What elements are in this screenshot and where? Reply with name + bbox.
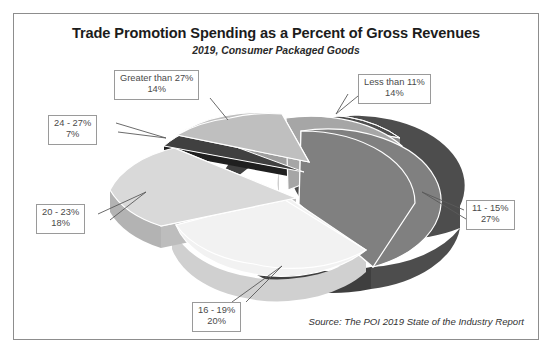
callout-24-27: 24 - 27% 7% bbox=[48, 115, 97, 145]
callout-label: 20 - 23% bbox=[42, 207, 79, 217]
callout-label: Less than 11% bbox=[364, 77, 425, 87]
callout-label: 24 - 27% bbox=[54, 118, 91, 128]
source-note: Source: The POI 2019 State of the Indust… bbox=[309, 316, 524, 327]
callout-16-19: 16 - 19% 20% bbox=[192, 302, 241, 332]
pie-chart-graphic bbox=[14, 14, 539, 340]
leader-line-24-27 bbox=[116, 123, 166, 138]
callout-20-23: 20 - 23% 18% bbox=[36, 204, 85, 234]
callout-value: 27% bbox=[472, 214, 509, 225]
leader-line-lt11 bbox=[336, 94, 358, 114]
callout-value: 18% bbox=[42, 218, 79, 229]
callout-less-than-11: Less than 11% 14% bbox=[358, 74, 431, 104]
callout-label: 16 - 19% bbox=[198, 305, 235, 315]
callout-value: 14% bbox=[364, 88, 425, 99]
callout-greater-than-27: Greater than 27% 14% bbox=[114, 70, 199, 100]
callout-value: 7% bbox=[54, 129, 91, 140]
chart-frame: Trade Promotion Spending as a Percent of… bbox=[13, 13, 539, 340]
callout-value: 20% bbox=[198, 316, 235, 327]
callout-label: Greater than 27% bbox=[120, 73, 193, 83]
callout-11-15: 11 - 15% 27% bbox=[466, 200, 515, 230]
callout-label: 11 - 15% bbox=[472, 203, 509, 213]
callout-value: 14% bbox=[120, 84, 193, 95]
